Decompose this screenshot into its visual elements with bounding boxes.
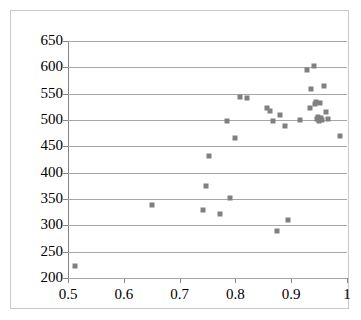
gridline bbox=[68, 199, 347, 200]
gridline bbox=[68, 225, 347, 226]
x-tick-mark bbox=[347, 278, 348, 283]
y-tick-label: 650 bbox=[41, 33, 64, 48]
y-tick-label: 250 bbox=[41, 244, 64, 259]
scatter-point bbox=[233, 135, 238, 140]
scatter-point bbox=[149, 203, 154, 208]
scatter-point bbox=[318, 100, 323, 105]
scatter-point bbox=[304, 67, 309, 72]
scatter-point bbox=[217, 211, 222, 216]
scatter-point bbox=[201, 208, 206, 213]
scatter-point bbox=[225, 119, 230, 124]
gridline bbox=[68, 120, 347, 121]
scatter-point bbox=[227, 195, 232, 200]
y-tick-label: 550 bbox=[41, 86, 64, 101]
scatter-point bbox=[321, 83, 326, 88]
scatter-point bbox=[338, 133, 343, 138]
y-tick-label: 300 bbox=[41, 217, 64, 232]
scatter-point bbox=[244, 96, 249, 101]
scatter-point bbox=[309, 87, 314, 92]
scatter-point bbox=[204, 183, 209, 188]
y-tick-label: 500 bbox=[41, 112, 64, 127]
gridline bbox=[68, 146, 347, 147]
y-tick-label: 200 bbox=[41, 270, 64, 285]
x-tick-label: 0.5 bbox=[59, 287, 78, 302]
scatter-point bbox=[206, 153, 211, 158]
gridline bbox=[68, 94, 347, 95]
x-tick-label: 0.9 bbox=[282, 287, 301, 302]
scatter-point bbox=[271, 118, 276, 123]
scatter-point bbox=[323, 109, 328, 114]
scatter-point bbox=[297, 118, 302, 123]
scatter-point bbox=[267, 108, 272, 113]
y-tick-label: 400 bbox=[41, 165, 64, 180]
chart-frame: 200250300350400450500550600650 0.50.60.7… bbox=[10, 10, 349, 309]
gridline bbox=[68, 173, 347, 174]
gridline bbox=[68, 252, 347, 253]
scatter-point bbox=[326, 116, 331, 121]
scatter-point bbox=[320, 118, 325, 123]
scatter-point bbox=[282, 123, 287, 128]
x-tick-label: 1 bbox=[343, 287, 351, 302]
scatter-point bbox=[237, 95, 242, 100]
scatter-point bbox=[286, 217, 291, 222]
x-tick-label: 0.7 bbox=[170, 287, 189, 302]
y-tick-label: 350 bbox=[41, 191, 64, 206]
y-tick-label: 450 bbox=[41, 138, 64, 153]
scatter-point bbox=[72, 264, 77, 269]
y-tick-label: 600 bbox=[41, 59, 64, 74]
x-tick-label: 0.6 bbox=[114, 287, 133, 302]
scatter-point bbox=[311, 63, 316, 68]
scatter-point bbox=[275, 228, 280, 233]
plot-area bbox=[68, 41, 347, 278]
gridline bbox=[68, 41, 347, 42]
x-tick-label: 0.8 bbox=[226, 287, 245, 302]
scatter-point bbox=[278, 113, 283, 118]
gridline bbox=[68, 278, 347, 279]
